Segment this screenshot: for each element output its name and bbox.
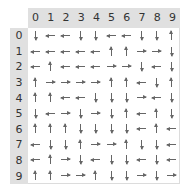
arrow-down-icon <box>166 61 177 72</box>
arrow-left-icon <box>151 61 162 72</box>
arrow-right-icon <box>90 77 101 88</box>
grid-cell <box>104 59 119 75</box>
grid-cell <box>149 106 164 122</box>
arrow-left-icon <box>60 46 71 57</box>
grid-cell <box>43 121 58 137</box>
grid-cell <box>43 137 58 153</box>
grid-cell <box>149 59 164 75</box>
grid-cell <box>104 106 119 122</box>
grid-cell <box>43 44 58 60</box>
grid-cell <box>104 44 119 60</box>
row-label: 0 <box>10 28 28 44</box>
grid-cell <box>149 90 164 106</box>
arrow-up-icon <box>106 46 117 57</box>
arrow-up-icon <box>45 123 56 134</box>
grid-cell <box>73 106 88 122</box>
grid-cell <box>43 59 58 75</box>
grid-cell <box>119 59 134 75</box>
grid-cell <box>88 137 103 153</box>
arrow-down-icon <box>121 123 132 134</box>
row-label: 9 <box>10 168 28 184</box>
arrow-down-icon <box>151 170 162 181</box>
arrow-left-icon <box>45 108 56 119</box>
arrow-left-icon <box>30 139 41 150</box>
grid-cell <box>134 168 149 184</box>
arrow-up-icon <box>121 46 132 57</box>
grid-cell <box>73 28 88 44</box>
grid-cell <box>73 75 88 91</box>
column-label: 7 <box>134 8 149 28</box>
column-label: 1 <box>43 8 58 28</box>
arrow-down-icon <box>106 154 117 165</box>
arrow-up-icon <box>45 170 56 181</box>
grid-cell <box>104 168 119 184</box>
grid-cell <box>164 44 179 60</box>
arrow-right-icon <box>106 61 117 72</box>
arrow-down-icon <box>30 108 41 119</box>
grid-cell <box>164 28 179 44</box>
grid-cell <box>149 75 164 91</box>
arrow-right-icon <box>60 170 71 181</box>
arrow-down-icon <box>90 30 101 41</box>
grid-cell <box>88 121 103 137</box>
arrow-down-icon <box>75 30 86 41</box>
arrow-up-icon <box>30 123 41 134</box>
arrow-right-icon <box>136 170 147 181</box>
grid-cell <box>119 168 134 184</box>
arrow-right-icon <box>136 46 147 57</box>
arrow-up-icon <box>30 92 41 103</box>
arrow-down-icon <box>75 108 86 119</box>
arrow-left-icon <box>136 77 147 88</box>
arrow-down-icon <box>106 123 117 134</box>
grid-cell <box>58 59 73 75</box>
grid-cell <box>149 121 164 137</box>
arrow-up-icon <box>30 77 41 88</box>
grid-cell <box>104 75 119 91</box>
grid-cell <box>164 59 179 75</box>
grid-cell <box>73 44 88 60</box>
arrow-left-icon <box>45 30 56 41</box>
arrow-left-icon <box>45 46 56 57</box>
grid-cell <box>134 106 149 122</box>
arrow-down-icon <box>166 46 177 57</box>
arrow-right-icon <box>45 77 56 88</box>
grid-cell <box>119 137 134 153</box>
grid-cell <box>104 90 119 106</box>
grid-cell <box>88 75 103 91</box>
grid-cell <box>104 28 119 44</box>
arrow-left-icon <box>30 154 41 165</box>
arrow-left-icon <box>30 46 41 57</box>
arrow-up-icon <box>151 108 162 119</box>
arrow-down-icon <box>60 139 71 150</box>
grid-cell <box>119 44 134 60</box>
arrow-down-icon <box>106 170 117 181</box>
arrow-down-icon <box>136 30 147 41</box>
arrow-down-icon <box>121 92 132 103</box>
grid-cell <box>134 75 149 91</box>
grid-cell <box>134 28 149 44</box>
arrow-up-icon <box>30 170 41 181</box>
arrow-grid <box>28 28 180 184</box>
arrow-left-icon <box>75 92 86 103</box>
arrow-up-icon <box>121 77 132 88</box>
grid-cell <box>134 137 149 153</box>
arrow-down-icon <box>151 139 162 150</box>
column-label: 6 <box>119 8 134 28</box>
arrow-up-icon <box>121 108 132 119</box>
arrow-left-icon <box>30 61 41 72</box>
arrow-right-icon <box>75 77 86 88</box>
grid-cell <box>28 152 43 168</box>
row-header: 0123456789 <box>10 28 28 184</box>
arrow-up-icon <box>60 123 71 134</box>
arrow-down-icon <box>45 139 56 150</box>
row-label: 3 <box>10 75 28 91</box>
row-label: 8 <box>10 153 28 169</box>
grid-cell <box>134 121 149 137</box>
arrow-up-icon <box>90 170 101 181</box>
arrow-down-icon <box>30 30 41 41</box>
arrow-right-icon <box>75 170 86 181</box>
grid-cell <box>28 28 43 44</box>
grid-cell <box>134 90 149 106</box>
row-label: 2 <box>10 59 28 75</box>
grid-cell <box>149 137 164 153</box>
